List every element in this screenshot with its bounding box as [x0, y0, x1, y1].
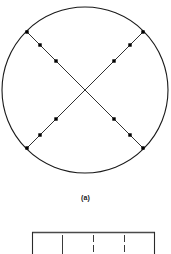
panel-a-drawing — [0, 0, 171, 182]
data-marker — [128, 43, 131, 46]
data-marker — [38, 133, 41, 136]
data-marker — [38, 43, 41, 46]
data-marker — [54, 59, 57, 62]
panel-b-drawing — [0, 228, 171, 254]
data-marker — [25, 30, 28, 33]
panel-a-caption: (a) — [0, 193, 171, 202]
figure-container: (a) — [0, 0, 171, 254]
data-marker — [128, 133, 131, 136]
data-marker — [141, 30, 144, 33]
data-marker — [54, 117, 57, 120]
data-marker — [112, 117, 115, 120]
panel-b-framed-scale — [0, 228, 171, 254]
data-marker — [25, 146, 28, 149]
panel-a-circular-pattern — [0, 0, 171, 182]
data-marker — [141, 146, 144, 149]
data-marker — [112, 59, 115, 62]
